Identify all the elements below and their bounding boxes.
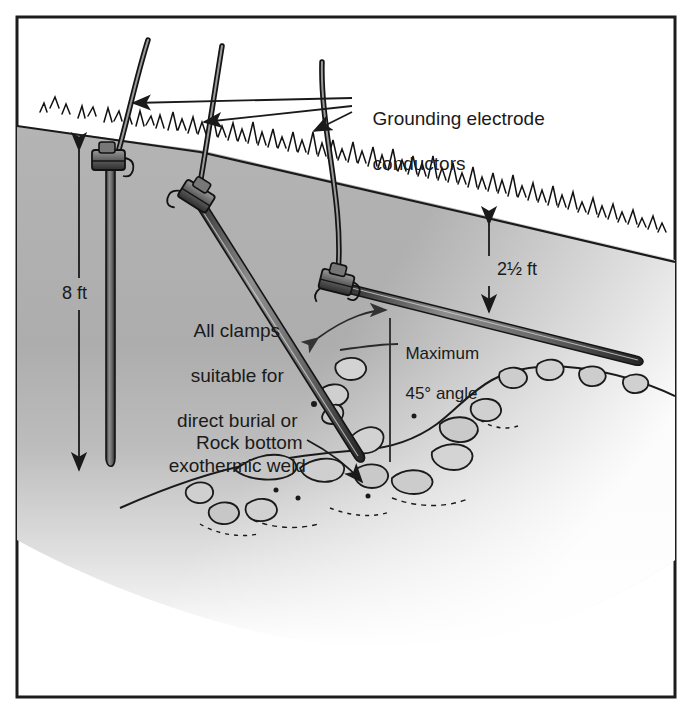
clamps-line-4: exothermic weld	[169, 455, 306, 476]
label-grounding-electrode-conductors: Grounding electrode conductors	[362, 86, 545, 176]
clamps-line-1: All clamps	[193, 320, 280, 341]
label-maximum-45-angle: Maximum 45° angle	[396, 324, 479, 404]
label-depth-2half-ft: 2½ ft	[497, 259, 537, 280]
max-angle-line-2: 45° angle	[405, 384, 477, 403]
max-angle-line-1: Maximum	[405, 344, 479, 363]
conductors-line-1: Grounding electrode	[373, 108, 545, 129]
diagram-stage: Grounding electrode conductors All clamp…	[0, 0, 692, 714]
clamps-line-3: direct burial or	[177, 410, 297, 431]
conductors-line-2: conductors	[373, 153, 466, 174]
clamps-line-2: suitable for	[191, 365, 284, 386]
label-rock-bottom: Rock bottom	[196, 432, 303, 454]
label-depth-8ft: 8 ft	[62, 283, 87, 304]
vertical-ground-rod	[106, 152, 115, 466]
grounding-electrode-diagram	[0, 0, 692, 714]
